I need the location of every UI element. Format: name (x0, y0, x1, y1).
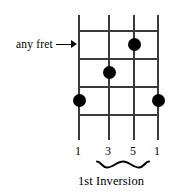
degree-label-3: 5 (125, 144, 141, 159)
fret-line-1 (78, 30, 159, 32)
dot-string-4-fret-3 (152, 94, 165, 107)
string-line-4 (157, 15, 159, 140)
string-line-3 (133, 15, 135, 140)
dot-string-1-fret-3 (73, 94, 86, 107)
inversion-caption: 1st Inversion (0, 174, 180, 189)
fretboard-grid (0, 0, 180, 195)
fret-line-2 (78, 58, 159, 60)
degree-label-4: 1 (149, 144, 165, 159)
dot-string-2-fret-2 (103, 66, 116, 79)
degree-label-2: 3 (100, 144, 116, 159)
string-line-1 (78, 15, 80, 140)
degree-label-1: 1 (70, 144, 86, 159)
fret-line-4 (78, 114, 159, 116)
inversion-brace (96, 160, 150, 173)
fret-line-3 (78, 86, 159, 88)
dot-string-3-fret-1 (128, 38, 141, 51)
right-arrow-icon (56, 39, 78, 49)
chord-diagram-figure: any fret 1 3 5 1 1st Inversion (0, 0, 180, 195)
brace-icon (96, 160, 150, 173)
any-fret-label: any fret (16, 38, 53, 50)
any-fret-annotation: any fret (4, 35, 78, 53)
